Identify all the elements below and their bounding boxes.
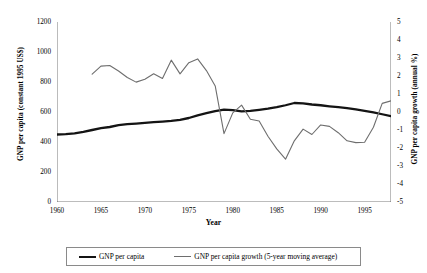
y-axis-right-tick-label: 3 xyxy=(397,54,423,62)
x-axis-tick-label: 1975 xyxy=(169,207,209,215)
y-axis-left-tick-label: 0 xyxy=(11,198,51,206)
legend-item-gnp-growth: GNP per capita growth (5-year moving ave… xyxy=(174,252,337,261)
chart-figure: GNP per capita (constant 1995 US$) GNP p… xyxy=(0,0,427,273)
plot-area xyxy=(57,22,391,202)
y-axis-right-tick-label: 1 xyxy=(397,90,423,98)
legend-label: GNP per capita xyxy=(99,252,144,261)
chart-canvas xyxy=(57,22,391,202)
y-axis-right-tick-label: 2 xyxy=(397,72,423,80)
x-axis-title: Year xyxy=(0,218,427,227)
y-axis-left-tick-label: 600 xyxy=(11,108,51,116)
x-axis-tick-label: 1970 xyxy=(125,207,165,215)
y-axis-right-tick-label: -2 xyxy=(397,144,423,152)
legend-swatch-line-icon xyxy=(79,256,96,258)
y-axis-left-tick-label: 1200 xyxy=(11,18,51,26)
x-axis-tick-label: 1990 xyxy=(301,207,341,215)
chart-legend: GNP per capita GNP per capita growth (5-… xyxy=(66,247,361,266)
x-axis-tick-label: 1985 xyxy=(257,207,297,215)
legend-label: GNP per capita growth (5-year moving ave… xyxy=(194,252,337,261)
x-axis-tick-label: 1995 xyxy=(345,207,385,215)
legend-swatch-line-icon xyxy=(174,256,191,257)
y-axis-right-tick-label: -1 xyxy=(397,126,423,134)
series-line xyxy=(57,103,391,135)
y-axis-left-tick-label: 200 xyxy=(11,168,51,176)
y-axis-left-tick-label: 800 xyxy=(11,78,51,86)
legend-item-gnp-per-capita: GNP per capita xyxy=(79,252,144,261)
x-axis-tick-label: 1965 xyxy=(81,207,121,215)
y-axis-right-tick-label: 4 xyxy=(397,36,423,44)
y-axis-left-tick-label: 1000 xyxy=(11,48,51,56)
y-axis-right-tick-label: -5 xyxy=(397,198,423,206)
y-axis-right-tick-label: 0 xyxy=(397,108,423,116)
y-axis-right-tick-label: -3 xyxy=(397,162,423,170)
y-axis-left-tick-label: 400 xyxy=(11,138,51,146)
y-axis-left-title: GNP per capita (constant 1995 US$) xyxy=(17,19,25,189)
x-axis-tick-label: 1980 xyxy=(213,207,253,215)
y-axis-right-tick-label: -4 xyxy=(397,180,423,188)
x-axis-tick-label: 1960 xyxy=(37,207,77,215)
y-axis-right-tick-label: 5 xyxy=(397,18,423,26)
